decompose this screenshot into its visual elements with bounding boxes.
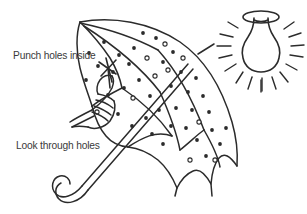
hole: [171, 50, 175, 54]
hole: [190, 108, 194, 112]
light-ray: [236, 72, 243, 83]
light-ray: [220, 34, 233, 37]
hole: [169, 124, 173, 128]
hole: [130, 124, 134, 128]
hole: [195, 138, 199, 142]
hole: [161, 60, 165, 64]
hole: [179, 70, 183, 74]
umbrella-scalloped-edge: [128, 147, 237, 188]
hole: [116, 112, 120, 116]
light-ray: [286, 64, 297, 70]
light-ray: [280, 72, 288, 82]
hole: [96, 64, 100, 68]
hole-ring: [163, 42, 167, 46]
hole: [210, 128, 214, 132]
hole-ring: [197, 120, 201, 124]
hole: [141, 31, 145, 35]
light-ray: [219, 55, 232, 58]
umbrella-rib-tip-lower-right: [211, 184, 212, 196]
label-look-through-holes: Look through holes: [16, 139, 100, 151]
hole-ring: [153, 74, 157, 78]
umbrella-handle-hook-inner: [56, 183, 88, 202]
light-ray: [290, 55, 303, 57]
line-art-drawing: [0, 0, 307, 214]
hole: [169, 84, 173, 88]
light-ray: [225, 64, 236, 71]
hole: [194, 76, 198, 80]
hole-ring: [181, 56, 185, 60]
hand-wrist-lower: [72, 116, 94, 127]
umbrella-shaft-line-b: [88, 69, 193, 190]
umbrella-rib-tip-upper-right: [198, 44, 214, 54]
hole: [150, 132, 154, 136]
hand-back: [92, 76, 114, 110]
light-ray: [272, 77, 276, 89]
label-punch-holes-inside: Punch holes inside: [13, 49, 96, 61]
hole-ring: [145, 56, 149, 60]
light-rays: [217, 22, 304, 92]
umbrella-rib-seam-5: [160, 92, 180, 150]
hole-ring: [166, 68, 170, 72]
hole: [224, 126, 228, 130]
hole: [201, 94, 205, 98]
hand-forearm: [70, 110, 92, 122]
hole: [122, 86, 126, 90]
hole-ring: [213, 158, 217, 162]
hand-palm-edge: [72, 126, 88, 127]
hole: [137, 78, 141, 82]
hole: [127, 62, 131, 66]
hole: [186, 90, 190, 94]
umbrella-rib-seam-1: [80, 23, 158, 50]
umbrella-rib-tip-lower-mid: [175, 188, 177, 196]
umbrella-folded-panel: [77, 22, 92, 106]
hole: [204, 154, 208, 158]
hole: [161, 142, 165, 146]
light-ray: [248, 77, 252, 89]
light-bulb-neck: [254, 20, 268, 22]
hole: [84, 78, 88, 82]
hole-ring: [131, 96, 135, 100]
light-ray: [228, 22, 238, 28]
light-ray: [291, 45, 304, 46]
light-ray: [284, 22, 294, 29]
hole-ring: [188, 158, 192, 162]
hole: [157, 108, 161, 112]
hole: [132, 46, 136, 50]
light-bulb-glass: [242, 18, 280, 72]
hole: [174, 106, 178, 110]
light-ray: [289, 33, 301, 37]
hole: [218, 142, 222, 146]
hole: [184, 126, 188, 130]
hole: [148, 94, 152, 98]
hole: [154, 36, 158, 40]
light-bulb: [242, 11, 280, 72]
umbrella-rib-seam-6: [204, 130, 220, 167]
hand: [70, 75, 115, 128]
hole: [102, 40, 106, 44]
hole: [144, 116, 148, 120]
hole: [207, 110, 211, 114]
illustration-canvas: Punch holes inside Look through holes: [0, 0, 307, 214]
umbrella-panel-line-2: [180, 130, 204, 150]
hole: [117, 53, 121, 57]
